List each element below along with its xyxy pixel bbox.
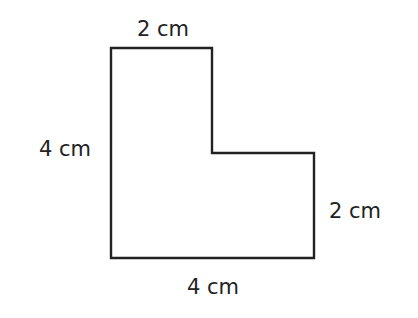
l-shape-diagram: 2 cm 4 cm 2 cm 4 cm xyxy=(0,0,418,318)
l-shape-outline xyxy=(111,48,314,258)
left-dimension-label: 4 cm xyxy=(39,137,91,161)
top-dimension-label: 2 cm xyxy=(137,17,189,41)
right-dimension-label: 2 cm xyxy=(329,199,381,223)
bottom-dimension-label: 4 cm xyxy=(187,275,239,299)
